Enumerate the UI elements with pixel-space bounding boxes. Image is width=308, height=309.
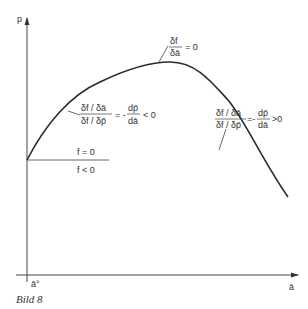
peak-leader-line xyxy=(159,46,168,62)
region-label-lower: f < 0 xyxy=(77,165,95,175)
rising-rhs: < 0 xyxy=(143,110,156,120)
rising-leader-line xyxy=(68,111,80,115)
x-axis-label: ā xyxy=(289,282,294,292)
falling-numerator: δf / δā xyxy=(216,108,241,118)
falling-leader-line xyxy=(219,129,226,150)
region-label-upper: f = 0 xyxy=(77,147,95,157)
peak-numerator: δf xyxy=(170,36,178,46)
rising-deriv-num: dp̄ xyxy=(128,103,138,113)
x-origin-label: ā° xyxy=(31,279,40,289)
falling-eq: =- xyxy=(247,114,255,124)
rising-deriv-den: dā xyxy=(128,116,138,126)
diagram-canvas: p ā ā° f = 0 f < 0 δf δā = 0 δf / δā δf … xyxy=(0,0,308,309)
y-axis-label: p xyxy=(17,14,22,24)
falling-deriv-num: dp̄ xyxy=(258,108,268,118)
yield-curve xyxy=(27,62,288,197)
rising-eq: = - xyxy=(115,110,126,120)
peak-denominator: δā xyxy=(170,48,180,58)
falling-deriv-den: dā xyxy=(258,120,268,130)
falling-denominator: δf / δp̄ xyxy=(216,120,241,130)
falling-rhs: >0 xyxy=(272,114,282,124)
figure-caption: Bild 8 xyxy=(16,293,43,305)
peak-rhs: = 0 xyxy=(185,42,198,52)
rising-numerator: δf / δā xyxy=(81,103,106,113)
rising-denominator: δf / δp̄ xyxy=(81,116,106,126)
